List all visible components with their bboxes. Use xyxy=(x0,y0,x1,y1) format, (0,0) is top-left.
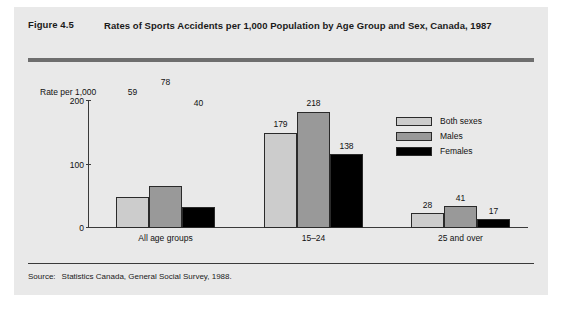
bar-value-all-age-groups-females: 40 xyxy=(182,98,215,108)
bar-15-24-both-sexes[interactable] xyxy=(264,133,297,229)
bar-value-15-24-males: 218 xyxy=(297,98,330,108)
x-axis-label-all-age-groups: All age groups xyxy=(116,233,215,243)
source-text: Statistics Canada, General Social Survey… xyxy=(62,272,232,281)
bar-group-all-age-groups xyxy=(116,100,215,228)
chart-plot-area: Rate per 1,000 200 100 0 59 78 40 xyxy=(14,7,548,295)
legend-swatch-males xyxy=(396,132,432,141)
x-axis-label-15-24: 15–24 xyxy=(264,233,363,243)
source-divider xyxy=(28,263,534,264)
bar-value-25-and-over-females: 17 xyxy=(477,206,510,216)
figure-panel: Figure 4.5 Rates of Sports Accidents per… xyxy=(14,7,548,295)
y-tick-label-100: 100 xyxy=(58,160,84,170)
bar-value-25-and-over-males: 41 xyxy=(444,193,477,203)
bar-value-15-24-females: 138 xyxy=(330,141,363,151)
legend-swatch-both-sexes xyxy=(396,117,432,126)
bar-value-15-24-both-sexes: 179 xyxy=(264,119,297,129)
bar-all-age-groups-both-sexes[interactable] xyxy=(116,197,149,229)
legend-label-both-sexes: Both sexes xyxy=(440,116,482,126)
bar-value-all-age-groups-both-sexes: 59 xyxy=(116,87,149,97)
bar-all-age-groups-males[interactable] xyxy=(149,186,182,228)
bar-25-and-over-both-sexes[interactable] xyxy=(411,213,444,228)
source-label: Source: xyxy=(28,272,56,281)
bar-all-age-groups-females[interactable] xyxy=(182,207,215,228)
legend-label-males: Males xyxy=(440,131,463,141)
legend-swatch-females xyxy=(396,147,432,156)
legend-label-females: Females xyxy=(440,146,473,156)
bar-value-all-age-groups-males: 78 xyxy=(149,77,182,87)
bar-15-24-males[interactable] xyxy=(297,112,330,228)
source-note: Source:Statistics Canada, General Social… xyxy=(28,272,232,281)
bar-25-and-over-males[interactable] xyxy=(444,206,477,228)
bar-15-24-females[interactable] xyxy=(330,154,363,228)
bar-value-25-and-over-both-sexes: 28 xyxy=(411,200,444,210)
y-tick-label-0: 0 xyxy=(58,223,84,233)
y-tick-label-200: 200 xyxy=(58,96,84,106)
x-axis-label-25-and-over: 25 and over xyxy=(411,233,510,243)
bar-25-and-over-females[interactable] xyxy=(477,219,510,228)
